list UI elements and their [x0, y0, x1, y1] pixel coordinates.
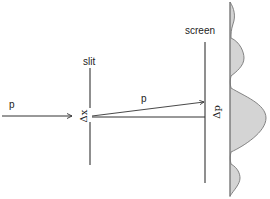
slit-width-label: Δx — [78, 109, 89, 122]
momentum-spread-label: Δp — [211, 105, 222, 119]
slit-label: slit — [83, 56, 95, 67]
deflected-momentum-label: p — [141, 93, 147, 104]
single-slit-diffraction-diagram: p slit Δx p screen Δp — [0, 0, 270, 199]
screen-label: screen — [185, 25, 215, 36]
deflected-momentum-arrow — [92, 102, 204, 116]
diffraction-pattern — [230, 2, 266, 196]
incoming-momentum-label: p — [9, 99, 15, 110]
